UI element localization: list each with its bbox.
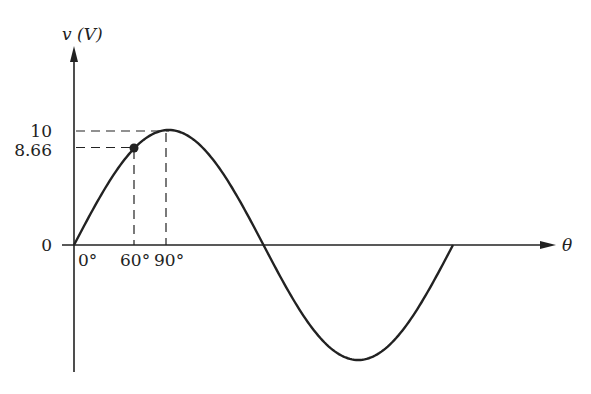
x-tick-90deg: 90° (154, 250, 184, 270)
x-tick-0deg: 0° (78, 250, 97, 270)
y-tick-10: 10 (30, 121, 52, 141)
sine-wave-chart: v (V) θ 10 8.66 0 0° 60° 90° (0, 0, 591, 394)
x-tick-60deg: 60° (120, 250, 150, 270)
x-axis-label: θ (562, 235, 572, 255)
y-tick-866: 8.66 (14, 140, 52, 160)
y-axis-label: v (V) (62, 24, 103, 44)
x-axis-arrow-icon (540, 241, 556, 249)
y-axis-arrow-icon (70, 46, 78, 62)
dashed-guides (76, 131, 169, 245)
y-tick-0: 0 (41, 235, 52, 255)
point-60deg-866 (130, 144, 139, 153)
